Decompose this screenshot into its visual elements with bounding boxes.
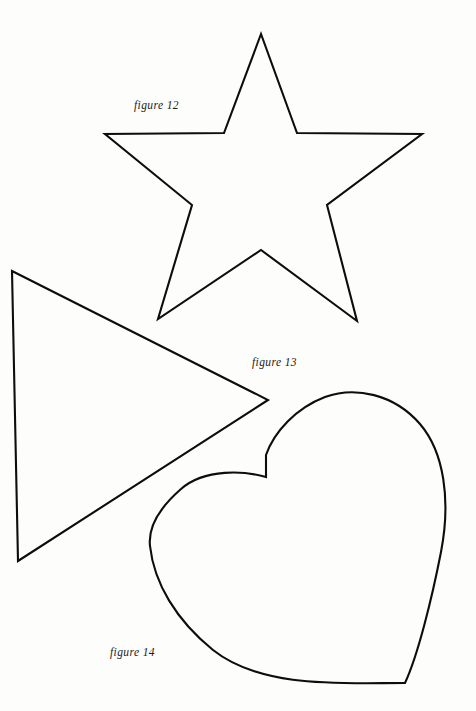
figure-13-caption: figure 13: [252, 356, 297, 368]
figure-sheet: figure 12 figure 13 figure 14: [0, 0, 476, 711]
star-shape: [105, 34, 422, 321]
triangle-shape: [12, 271, 268, 561]
figure-12-caption: figure 12: [134, 99, 179, 111]
figure-canvas: [0, 0, 476, 711]
heart-shape: [150, 392, 446, 683]
figure-14-caption: figure 14: [110, 646, 155, 658]
